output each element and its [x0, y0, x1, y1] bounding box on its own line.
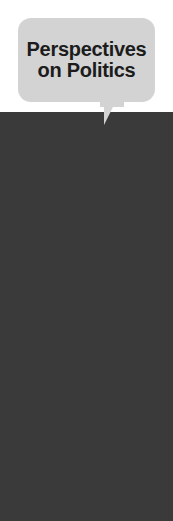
- dark-background-panel: [0, 108, 173, 521]
- speech-bubble-tail: [104, 99, 126, 125]
- title-line-2: on Politics: [27, 60, 147, 81]
- figure-card: Perspectives on Politics OPINIONS OF INS…: [0, 0, 173, 521]
- page-title: Perspectives on Politics: [21, 39, 153, 81]
- title-line-1: Perspectives: [27, 38, 147, 60]
- speech-bubble: Perspectives on Politics: [18, 18, 155, 102]
- title-zone: Perspectives on Politics: [0, 0, 173, 112]
